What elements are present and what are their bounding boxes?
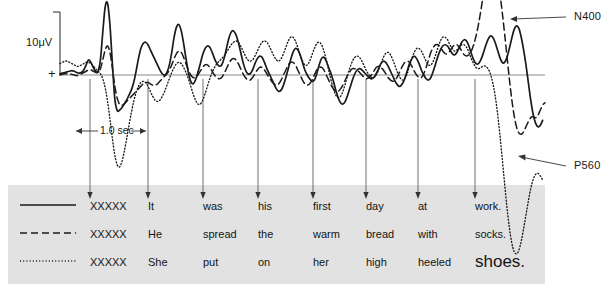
legend-word: with (418, 228, 438, 240)
p560-annotation-label: P560 (574, 159, 601, 171)
legend-panel (8, 185, 545, 284)
amplitude-scale-label: 10μV (26, 36, 52, 48)
erp-figure: 10μV + 1.0 sec N400 P560 XXXXXItwashisfi… (0, 0, 607, 284)
legend-word: spread (203, 228, 237, 240)
legend-word: on (258, 256, 270, 268)
word-onset-markers (87, 79, 477, 199)
legend-word: He (148, 228, 162, 240)
time-scale-label: 1.0 sec (100, 124, 134, 136)
legend-word: at (418, 200, 427, 212)
legend-word: put (203, 256, 218, 268)
legend-word: shoes. (475, 252, 525, 272)
legend-word: her (313, 256, 329, 268)
erp-plot-svg (0, 0, 607, 284)
legend-word: was (203, 200, 223, 212)
legend-word: his (258, 200, 272, 212)
legend-word: XXXXX (90, 200, 127, 212)
legend-word: It (148, 200, 154, 212)
legend-word: work. (475, 200, 501, 212)
legend-word: high (366, 256, 387, 268)
legend-word: XXXXX (90, 228, 127, 240)
legend-word: XXXXX (90, 256, 127, 268)
legend-word: She (148, 256, 168, 268)
legend-word: heeled (418, 256, 451, 268)
n400-annotation-label: N400 (574, 10, 601, 22)
legend-word: day (366, 200, 384, 212)
legend-word: warm (313, 228, 340, 240)
polarity-positive-label: + (48, 66, 56, 81)
annotation-leaders (510, 16, 566, 166)
legend-word: bread (366, 228, 394, 240)
trace-dashed (60, 0, 545, 134)
legend-word: socks. (475, 228, 506, 240)
legend-word: the (258, 228, 273, 240)
legend-word: first (313, 200, 331, 212)
